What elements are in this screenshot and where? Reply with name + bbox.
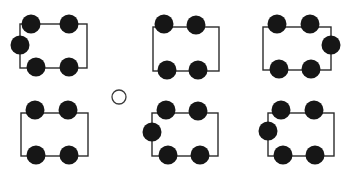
bottom-right-rectangle-group <box>259 101 335 165</box>
node-top-right <box>305 101 324 120</box>
node-top-right <box>59 101 78 120</box>
node-top-left <box>155 15 174 34</box>
node-bottom-right <box>306 146 325 165</box>
bottom-left-rectangle-group <box>21 101 88 165</box>
node-top-left <box>26 101 45 120</box>
standalone-nodes-layer <box>112 90 126 104</box>
node-bottom-right <box>60 146 79 165</box>
node-top-left <box>272 101 291 120</box>
node-top-left <box>22 15 41 34</box>
node-left-edge <box>11 36 30 55</box>
node-right-edge <box>322 36 341 55</box>
node-bottom-left <box>274 146 293 165</box>
node-bottom-right <box>302 60 321 79</box>
node-bottom-right <box>191 146 210 165</box>
center-hollow-node <box>112 90 126 104</box>
top-middle-rectangle-group <box>153 15 219 80</box>
node-bottom-left <box>158 61 177 80</box>
node-left-edge <box>143 123 162 142</box>
top-right-rectangle-group <box>263 15 341 79</box>
node-bottom-left <box>270 60 289 79</box>
node-top-left <box>268 15 287 34</box>
node-top-right <box>301 15 320 34</box>
node-bottom-right <box>60 58 79 77</box>
rectangle-groups-layer <box>11 15 341 165</box>
diagram-canvas <box>0 0 351 170</box>
node-bottom-left <box>159 146 178 165</box>
node-top-right <box>187 16 206 35</box>
node-bottom-right <box>189 61 208 80</box>
node-bottom-left <box>27 146 46 165</box>
bottom-middle-rectangle-group <box>143 101 219 165</box>
node-left-edge <box>259 122 278 141</box>
node-top-left <box>157 101 176 120</box>
node-top-right <box>60 15 79 34</box>
node-top-right <box>189 102 208 121</box>
diagram-svg <box>0 0 351 170</box>
node-bottom-left <box>27 58 46 77</box>
top-left-rectangle-group <box>11 15 88 77</box>
